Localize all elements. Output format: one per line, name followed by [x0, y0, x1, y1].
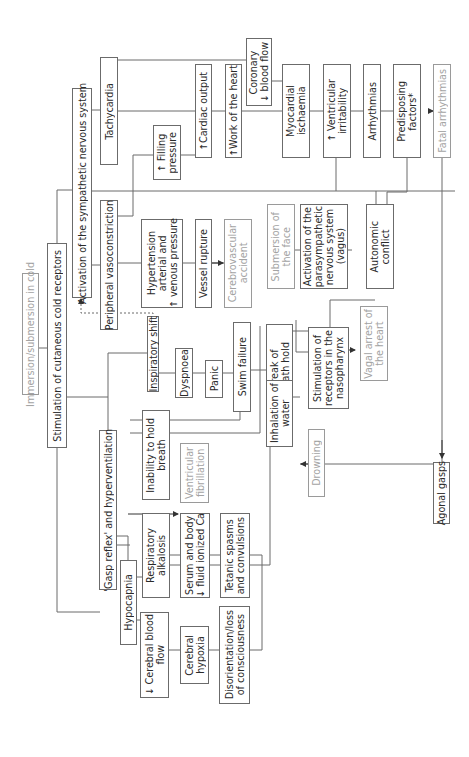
node-swim-failure: Swim failure — [233, 322, 251, 412]
node-submersion-face: Submersion of the face — [267, 204, 295, 289]
node-stimulation-cold-receptors: Stimulation of cutaneous cold receptors — [47, 243, 67, 448]
node-agonal-gasps: Agonal gasps — [433, 462, 450, 524]
node-serum-ionized-ca: Serum and body ↓ fluid ionized Ca — [180, 513, 210, 598]
cold-water-immersion-flowchart: Immersion/submersion in cold Stimulation… — [0, 0, 469, 757]
node-vagal-arrest: Vagal arrest of the heart — [360, 306, 388, 381]
node-disorientation: Disorientation/loss of consciousness — [219, 606, 250, 704]
node-respiratory-alkalosis: Respiratory alkalosis — [142, 513, 170, 598]
node-autonomic-conflict: Autonomic conflict — [366, 204, 394, 289]
node-filling-pressure: ↑ Filling pressure — [153, 125, 181, 180]
node-arrhythmias: Arrhythmias — [363, 64, 381, 158]
node-parasympathetic-activation: Activation of the parasympathetic nervou… — [300, 204, 348, 289]
node-inhalation-water: Inhalation of water — [266, 380, 293, 447]
node-inability-hold-breath: Inability to hold breath — [142, 410, 170, 500]
node-vessel-rupture: Vessel rupture — [195, 219, 212, 308]
node-sympathetic-activation: Activation of the sympathetic nervous sy… — [72, 88, 92, 298]
node-ventricular-fibrillation: Ventricular fibrillation — [180, 443, 209, 503]
node-panic: Panic — [205, 360, 223, 398]
node-hypocapnia: Hypocapnia — [120, 560, 137, 645]
node-tachycardia: Tachycardia — [100, 57, 118, 165]
node-ventricular-irritability: ↑ Ventricular irritability — [323, 64, 351, 158]
node-myocardial-ischaemia: Myocardial ischaemia — [282, 64, 310, 158]
node-immersion: Immersion/submersion in cold — [22, 273, 39, 395]
node-predisposing-factors: Predisposing factors* — [393, 64, 421, 158]
node-peripheral-vasoconstriction: Peripheral vasoconstriction — [100, 200, 118, 330]
node-cerebral-blood-flow: ↓ Cerebral blood flow — [140, 612, 169, 698]
node-hypertension: Hypertension arterial and ↑ venous press… — [141, 219, 183, 308]
node-work-of-heart: ↑Work of the heart — [225, 64, 242, 158]
node-inspiratory-shift: Inspiratory shift — [147, 316, 159, 392]
node-dyspnoea: Dyspnoea — [175, 348, 193, 398]
node-tetanic-spasms: Tetanic spasms and convulsions — [220, 513, 250, 598]
node-coronary-blood-flow: Coronary ↓ blood flow — [246, 38, 272, 106]
node-gasp-reflex: 'Gasp reflex' and hyperventilation — [99, 430, 117, 590]
node-cerebrovascular-accident: Cerebrovascular accident — [224, 219, 252, 308]
node-drowning: Drowning — [308, 429, 325, 497]
node-fatal-arrhythmias: Fatal arrhythmias — [433, 64, 451, 158]
node-cardiac-output: ↑Cardiac output — [195, 64, 212, 158]
node-cerebral-hypoxia: Cerebral hypoxia — [180, 626, 209, 684]
node-nasopharynx-receptors: Stimulation of receptors in the nasophar… — [308, 327, 349, 409]
